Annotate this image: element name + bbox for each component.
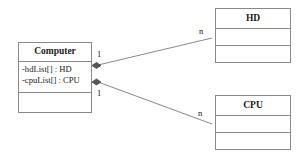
composition-diamond-hd (92, 63, 101, 69)
class-attributes-computer: -hdList[] : HD -cpuList[] : CPU (19, 62, 91, 93)
composition-line-computer-cpu (98, 82, 212, 124)
uml-class-computer[interactable]: Computer -hdList[] : HD -cpuList[] : CPU (18, 42, 92, 113)
multiplicity-label-computer-hd-source: 1 (97, 50, 101, 59)
class-operations-computer (19, 93, 91, 112)
class-attributes-hd (216, 29, 290, 46)
composition-line-computer-hd (98, 38, 212, 65)
multiplicity-label-computer-cpu-target: n (198, 109, 202, 118)
multiplicity-label-computer-cpu-source: 1 (97, 89, 101, 98)
composition-diamond-cpu (92, 79, 101, 85)
class-name-hd: HD (216, 9, 290, 29)
class-operations-hd (216, 46, 290, 62)
class-attributes-cpu (216, 116, 290, 133)
uml-class-cpu[interactable]: CPU (215, 95, 291, 150)
diagram-canvas: Computer -hdList[] : HD -cpuList[] : CPU… (0, 0, 296, 158)
multiplicity-label-computer-hd-target: n (199, 27, 203, 36)
attribute-item: -hdList[] : HD (22, 64, 89, 75)
attribute-item: -cpuList[] : CPU (22, 75, 89, 86)
uml-class-hd[interactable]: HD (215, 8, 291, 63)
class-operations-cpu (216, 133, 290, 149)
class-name-computer: Computer (19, 43, 91, 62)
class-name-cpu: CPU (216, 96, 290, 116)
